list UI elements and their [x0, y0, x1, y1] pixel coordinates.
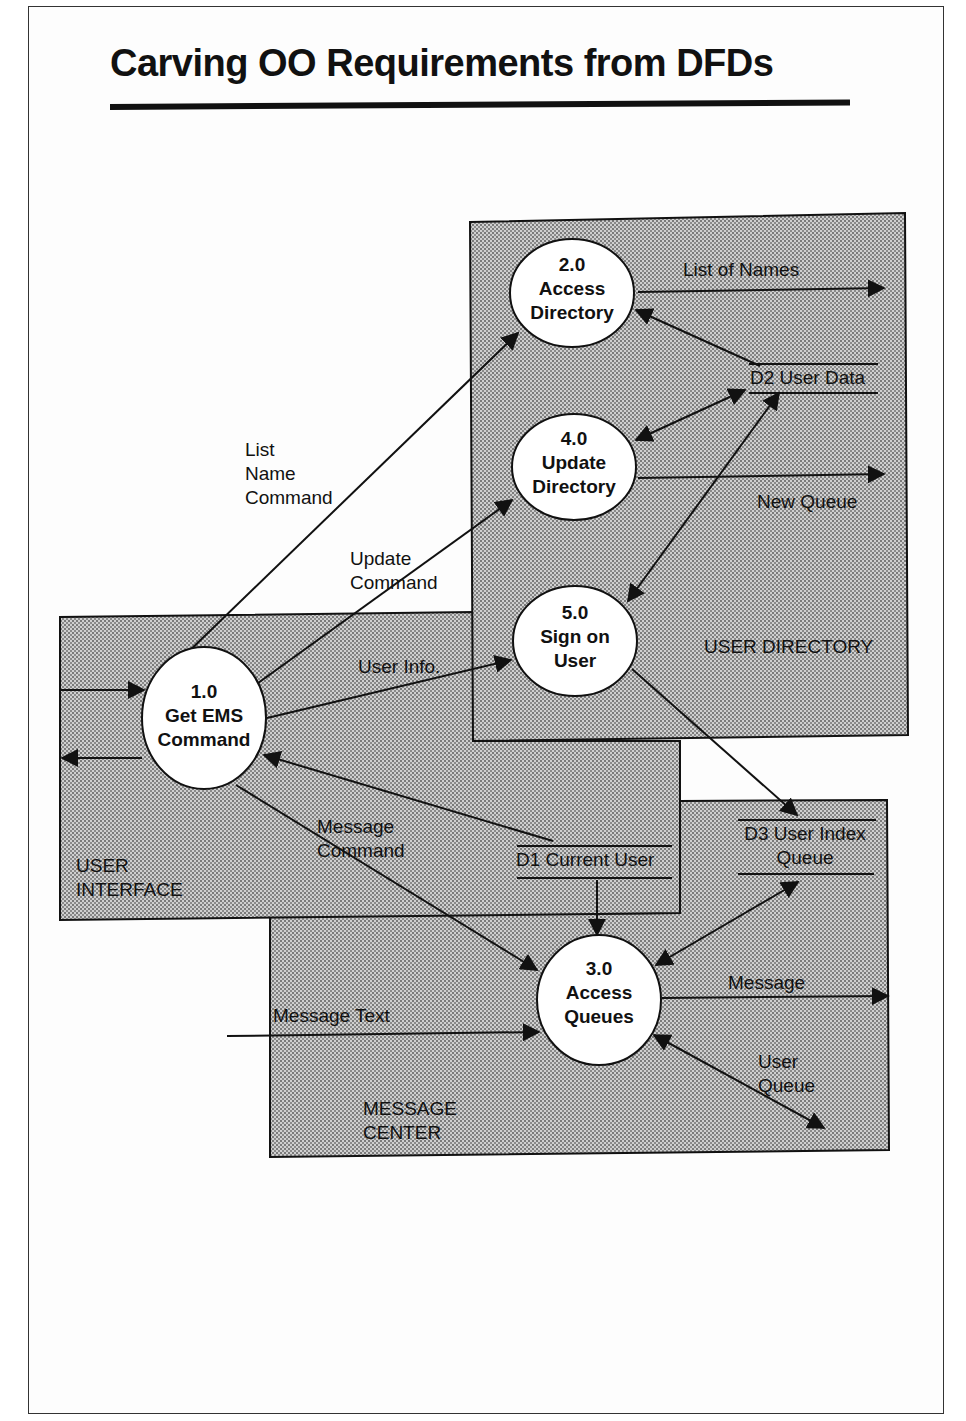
- process-1-id: 1.0: [191, 681, 217, 702]
- process-2: 2.0 Access Directory: [510, 239, 634, 347]
- process-2-id: 2.0: [559, 254, 585, 275]
- flow-label-new-queue: New Queue: [757, 491, 857, 512]
- flow-label-update-command-1: Update: [350, 548, 411, 569]
- dfd-diagram: USER DIRECTORY USER INTERFACE MESSAGE CE…: [0, 0, 966, 1421]
- flow-label-list-name-2: Name: [245, 463, 296, 484]
- data-store-d2-label: D2 User Data: [750, 367, 866, 388]
- process-2-line1: Access: [539, 278, 606, 299]
- process-3: 3.0 Access Queues: [537, 935, 661, 1065]
- process-5: 5.0 Sign on User: [513, 586, 637, 696]
- process-1-line2: Command: [158, 729, 251, 750]
- flow-label-user-info: User Info.: [358, 656, 440, 677]
- flow-label-list-of-names: List of Names: [683, 259, 799, 280]
- region-label-user-interface-2: INTERFACE: [76, 879, 183, 900]
- flow-label-user-queue-1: User: [758, 1051, 799, 1072]
- region-label-message-center-1: MESSAGE: [363, 1098, 457, 1119]
- process-1-line1: Get EMS: [165, 705, 243, 726]
- process-3-id: 3.0: [586, 958, 612, 979]
- process-4: 4.0 Update Directory: [512, 414, 636, 520]
- flow-label-list-name-1: List: [245, 439, 275, 460]
- process-5-line1: Sign on: [540, 626, 610, 647]
- process-2-line2: Directory: [530, 302, 614, 323]
- data-store-d3-label-1: D3 User Index: [744, 823, 866, 844]
- flow-list-name-command: [183, 333, 518, 657]
- flow-label-update-command-2: Command: [350, 572, 438, 593]
- flow-label-message-text: Message Text: [273, 1005, 391, 1026]
- region-label-user-directory: USER DIRECTORY: [704, 636, 874, 657]
- process-5-id: 5.0: [562, 602, 588, 623]
- flow-label-message-command-2: Command: [317, 840, 405, 861]
- process-5-line2: User: [554, 650, 597, 671]
- process-4-line1: Update: [542, 452, 606, 473]
- region-label-message-center-2: CENTER: [363, 1122, 441, 1143]
- flow-label-message: Message: [728, 972, 805, 993]
- process-3-line2: Queues: [564, 1006, 634, 1027]
- process-4-line2: Directory: [532, 476, 616, 497]
- flow-label-user-queue-2: Queue: [758, 1075, 815, 1096]
- data-store-d1-label: D1 Current User: [516, 849, 655, 870]
- region-label-user-interface-1: USER: [76, 855, 129, 876]
- process-4-id: 4.0: [561, 428, 587, 449]
- flow-label-message-command-1: Message: [317, 816, 394, 837]
- flow-label-list-name-3: Command: [245, 487, 333, 508]
- data-store-d3-label-2: Queue: [776, 847, 833, 868]
- process-3-line1: Access: [566, 982, 633, 1003]
- process-1: 1.0 Get EMS Command: [142, 647, 266, 789]
